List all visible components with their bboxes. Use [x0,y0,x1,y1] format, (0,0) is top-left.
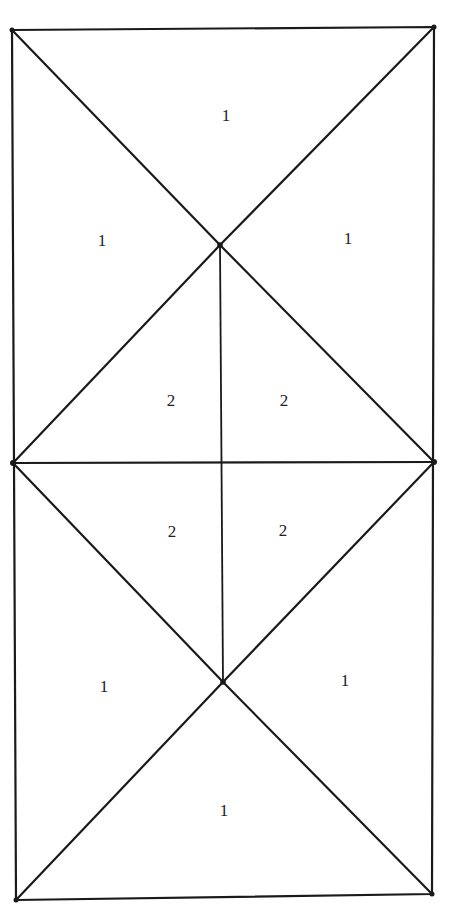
region-label-lower-inner-right: 2 [279,521,288,540]
region-label-top: 1 [222,106,231,125]
vertex-bottom-left [14,898,19,903]
vertex-bottom-right [430,892,435,897]
diagonal-top-right-to-upper-center [220,27,434,245]
diagonal-lower-center-to-bottom-left [16,682,223,900]
vertex-lower-center [220,679,226,685]
vertex-mid-left [10,460,16,466]
edge-mid-right-to-lower-center [223,462,434,682]
diagonal-top-left-to-upper-center [12,30,220,245]
edge-mid-left-to-lower-center [13,463,223,682]
region-label-lower-left: 1 [100,677,109,696]
region-label-lower-right: 1 [341,671,350,690]
region-label-bottom: 1 [220,801,229,820]
vertex-upper-center [217,242,223,248]
horizontal-midline [13,462,434,463]
edge-upper-center-to-mid-left [13,245,220,463]
edge-upper-center-to-mid-right [220,245,434,462]
vertex-top-right [432,25,437,30]
region-label-upper-inner-right: 2 [280,391,289,410]
region-label-upper-inner-left: 2 [167,391,176,410]
region-label-upper-left: 1 [98,231,107,250]
region-label-upper-right: 1 [344,229,353,248]
vertex-top-left [10,28,15,33]
region-label-lower-inner-left: 2 [168,522,177,541]
triangulation-diagram: 1 1 1 2 2 2 2 1 1 1 [0,0,466,910]
diagonal-lower-center-to-bottom-right [223,682,432,894]
vertex-mid-right [431,459,437,465]
